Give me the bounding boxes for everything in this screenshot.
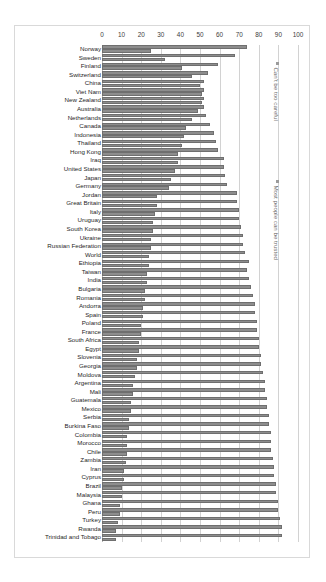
bar-cant-be-too-careful bbox=[102, 234, 243, 237]
chart-row: Peru bbox=[15, 508, 311, 517]
legend-item-most-people-can-be-trusted: Most people can be trusted bbox=[272, 180, 280, 260]
bar-most-people-can-be-trusted bbox=[102, 452, 127, 455]
chart-row: Colombia bbox=[15, 431, 311, 440]
category-label: South Korea bbox=[17, 225, 101, 234]
bar-group bbox=[102, 456, 298, 465]
x-tick-label-50: 50 bbox=[196, 30, 203, 39]
chart-row: Moldova bbox=[15, 371, 311, 380]
bar-cant-be-too-careful bbox=[102, 414, 269, 417]
bar-most-people-can-be-trusted bbox=[102, 486, 122, 489]
bar-cant-be-too-careful bbox=[102, 302, 255, 305]
bar-cant-be-too-careful bbox=[102, 320, 257, 323]
bar-cant-be-too-careful bbox=[102, 482, 276, 485]
legend-swatch-trusted bbox=[276, 180, 279, 183]
bar-most-people-can-be-trusted bbox=[102, 426, 129, 429]
bar-cant-be-too-careful bbox=[102, 165, 224, 168]
category-label: Spain bbox=[17, 311, 101, 320]
bar-most-people-can-be-trusted bbox=[102, 324, 141, 327]
bar-cant-be-too-careful bbox=[102, 422, 269, 425]
chart-row: Trinidad and Tobago bbox=[15, 533, 311, 542]
bar-most-people-can-be-trusted bbox=[102, 401, 131, 404]
bar-cant-be-too-careful bbox=[102, 328, 257, 331]
bar-cant-be-too-careful bbox=[102, 285, 251, 288]
legend-item-cant-be-too-careful: Can't be too careful bbox=[272, 62, 280, 121]
bar-cant-be-too-careful bbox=[102, 277, 249, 280]
bar-group bbox=[102, 388, 298, 397]
bar-cant-be-too-careful bbox=[102, 208, 239, 211]
bar-most-people-can-be-trusted bbox=[102, 512, 120, 515]
x-tick-label-80: 80 bbox=[255, 30, 262, 39]
bar-most-people-can-be-trusted bbox=[102, 358, 137, 361]
bar-most-people-can-be-trusted bbox=[102, 315, 143, 318]
chart-row: Chile bbox=[15, 448, 311, 457]
bar-most-people-can-be-trusted bbox=[102, 126, 186, 129]
bar-most-people-can-be-trusted bbox=[102, 435, 127, 438]
bar-cant-be-too-careful bbox=[102, 294, 253, 297]
bar-most-people-can-be-trusted bbox=[102, 538, 116, 541]
x-tick-label-100: 100 bbox=[293, 30, 304, 39]
chart-row: Andorra bbox=[15, 302, 311, 311]
bar-cant-be-too-careful bbox=[102, 97, 204, 100]
category-label: Slovenia bbox=[17, 353, 101, 362]
category-label: Romania bbox=[17, 294, 101, 303]
bar-cant-be-too-careful bbox=[102, 465, 274, 468]
bar-cant-be-too-careful bbox=[102, 63, 218, 66]
category-label: Georgia bbox=[17, 362, 101, 371]
bar-cant-be-too-careful bbox=[102, 500, 278, 503]
bar-group bbox=[102, 379, 298, 388]
bar-most-people-can-be-trusted bbox=[102, 58, 165, 61]
bar-most-people-can-be-trusted bbox=[102, 349, 139, 352]
bar-cant-be-too-careful bbox=[102, 45, 247, 48]
category-label: Chile bbox=[17, 448, 101, 457]
bar-cant-be-too-careful bbox=[102, 131, 214, 134]
category-label: Canada bbox=[17, 122, 101, 131]
bar-most-people-can-be-trusted bbox=[102, 84, 200, 87]
chart-row: Sweden bbox=[15, 54, 311, 63]
category-label: Norway bbox=[17, 45, 101, 54]
category-label: Iran bbox=[17, 465, 101, 474]
legend-swatch-careful bbox=[276, 62, 279, 65]
bar-cant-be-too-careful bbox=[102, 491, 276, 494]
x-tick-label-70: 70 bbox=[236, 30, 243, 39]
category-label: Iraq bbox=[17, 156, 101, 165]
chart-row: Norway bbox=[15, 45, 311, 54]
bar-most-people-can-be-trusted bbox=[102, 264, 149, 267]
bar-most-people-can-be-trusted bbox=[102, 341, 139, 344]
chart-row: Poland bbox=[15, 319, 311, 328]
bar-group bbox=[102, 405, 298, 414]
chart-row: Mali bbox=[15, 388, 311, 397]
bar-most-people-can-be-trusted bbox=[102, 75, 192, 78]
bar-group bbox=[102, 45, 298, 54]
bar-cant-be-too-careful bbox=[102, 114, 206, 117]
bar-cant-be-too-careful bbox=[102, 174, 225, 177]
bar-group bbox=[102, 345, 298, 354]
bar-cant-be-too-careful bbox=[102, 457, 273, 460]
chart-row: Burkina Faso bbox=[15, 422, 311, 431]
bar-cant-be-too-careful bbox=[102, 345, 259, 348]
bar-most-people-can-be-trusted bbox=[102, 332, 141, 335]
bar-most-people-can-be-trusted bbox=[102, 101, 202, 104]
legend-label-trusted: Most people can be trusted bbox=[273, 185, 280, 260]
chart-row: Rwanda bbox=[15, 525, 311, 534]
category-label: Trinidad and Tobago bbox=[17, 533, 101, 542]
bar-group bbox=[102, 319, 298, 328]
category-label: Viet Nam bbox=[17, 88, 101, 97]
category-label: Moldova bbox=[17, 371, 101, 380]
bar-most-people-can-be-trusted bbox=[102, 178, 171, 181]
chart-row: Spain bbox=[15, 311, 311, 320]
chart-row: South Africa bbox=[15, 336, 311, 345]
category-label: Morocco bbox=[17, 439, 101, 448]
bar-most-people-can-be-trusted bbox=[102, 418, 129, 421]
category-label: Australia bbox=[17, 105, 101, 114]
bar-most-people-can-be-trusted bbox=[102, 375, 135, 378]
bar-most-people-can-be-trusted bbox=[102, 444, 127, 447]
chart-row: Georgia bbox=[15, 362, 311, 371]
bar-group bbox=[102, 396, 298, 405]
bar-cant-be-too-careful bbox=[102, 183, 227, 186]
bar-cant-be-too-careful bbox=[102, 362, 261, 365]
bar-cant-be-too-careful bbox=[102, 105, 204, 108]
bar-cant-be-too-careful bbox=[102, 54, 235, 57]
bar-cant-be-too-careful bbox=[102, 71, 208, 74]
bar-group bbox=[102, 473, 298, 482]
x-tick-label-20: 20 bbox=[138, 30, 145, 39]
